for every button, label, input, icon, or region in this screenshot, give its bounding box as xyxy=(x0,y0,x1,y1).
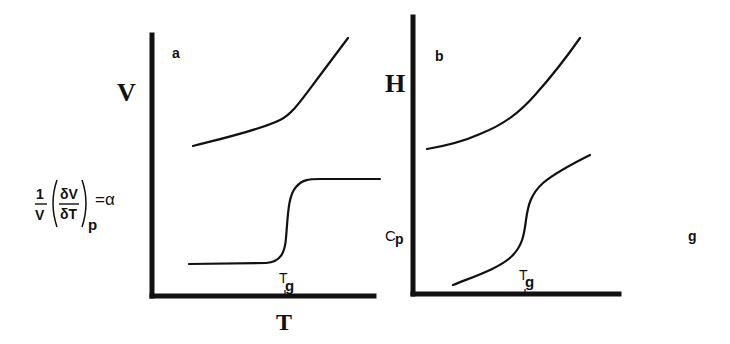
formula-subscript-p: p xyxy=(88,216,97,233)
formula-right-paren xyxy=(82,180,86,227)
formula-equals-alpha: =α xyxy=(95,190,115,209)
formula-dv: δV xyxy=(60,186,78,202)
stray-label-g: g xyxy=(688,228,697,244)
panel-a-upper-curve xyxy=(193,38,348,146)
formula-dt: δT xyxy=(60,206,77,222)
panel-a-lower-y-label: 1 V δV δT p =α xyxy=(35,180,115,233)
panel-a-upper-y-label: V xyxy=(117,78,136,107)
panel-b-lower-y-label: C p xyxy=(385,227,404,247)
panel-a-x-label: T xyxy=(276,309,292,335)
panel-b-label: b xyxy=(435,48,444,64)
panel-a-label: a xyxy=(172,45,180,61)
panel-a-tg-sub: g xyxy=(285,277,294,294)
formula-v: V xyxy=(35,207,45,223)
panel-a: a V T T g 1 V δV δT p =α xyxy=(35,35,380,335)
panel-b-cp-sub: p xyxy=(395,231,404,247)
panel-b-tg-label: T g xyxy=(519,267,534,290)
panel-b-upper-curve xyxy=(427,38,580,149)
formula-one: 1 xyxy=(36,186,44,202)
glass-transition-figure: a V T T g 1 V δV δT p =α b H C xyxy=(0,0,730,344)
panel-b-tg-sub: g xyxy=(525,273,534,290)
formula-left-paren xyxy=(53,180,57,227)
panel-b-lower-curve xyxy=(453,155,590,285)
panel-b-upper-y-label: H xyxy=(385,69,405,98)
panel-b: b H C p T g xyxy=(385,17,619,294)
panel-a-tg-label: T g xyxy=(279,270,294,294)
panel-a-lower-curve xyxy=(189,179,380,264)
